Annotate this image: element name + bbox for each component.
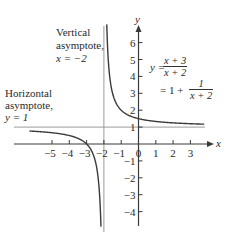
y-axis-label: y	[135, 13, 140, 25]
fraction-1-denominator: x + 2	[163, 67, 187, 78]
x-tick-label: −3	[79, 147, 91, 159]
y-tick-label: 2	[130, 104, 136, 116]
x-tick-label: 2	[170, 147, 176, 159]
horizontal-asymptote-line3: y = 1	[5, 111, 28, 123]
x-axis-arrow-icon	[207, 141, 214, 147]
vertical-asymptote-line3: x = −2	[56, 52, 87, 64]
y-tick-label: 1	[130, 121, 136, 133]
x-tick-label: 0	[136, 147, 142, 159]
x-tick-label: −2	[96, 147, 108, 159]
y-tick-label: −3	[124, 189, 136, 201]
equation-fraction-2: 1 x + 2	[189, 78, 213, 101]
fraction-2-denominator: x + 2	[189, 90, 213, 101]
y-tick-label: 4	[130, 70, 136, 82]
y-tick-label: −4	[124, 206, 136, 218]
fraction-2-numerator: 1	[189, 78, 213, 90]
x-tick-label: −4	[61, 147, 73, 159]
y-tick-label: 6	[130, 37, 136, 49]
y-tick-label: −1	[124, 155, 136, 167]
y-tick-label: 5	[130, 54, 136, 66]
x-axis-label: x	[216, 137, 221, 149]
vertical-asymptote-line1: Vertical	[56, 26, 90, 38]
y-tick-label: −2	[124, 172, 136, 184]
left-branch-curve	[30, 131, 101, 227]
x-tick-label: −5	[44, 147, 56, 159]
fraction-1-numerator: x + 3	[163, 55, 187, 67]
y-axis-arrow-icon	[136, 25, 142, 32]
y-tick-label: 3	[130, 87, 136, 99]
equation-fraction-1: x + 3 x + 2	[163, 55, 187, 78]
x-tick-label: 1	[153, 147, 159, 159]
vertical-asymptote-line2: asymptote,	[56, 39, 104, 51]
right-branch-curve	[107, 24, 204, 124]
equation-line2-prefix: = 1 +	[160, 84, 183, 96]
x-tick-label: 3	[188, 147, 194, 159]
horizontal-asymptote-line2: asymptote,	[5, 99, 53, 111]
horizontal-asymptote-line1: Horizontal	[5, 87, 52, 99]
graph-plot: −5−4−3−2−10123−4−3−2−1123456	[0, 0, 230, 239]
